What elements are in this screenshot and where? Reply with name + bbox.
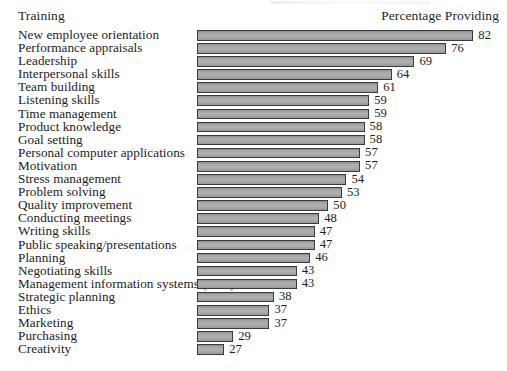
category-label: Public speaking/presentations	[18, 238, 177, 251]
bar	[197, 56, 414, 67]
bar-value-label: 43	[302, 277, 315, 291]
bar-track: 47	[197, 226, 375, 237]
bar	[197, 30, 473, 41]
bar-value-label: 57	[365, 159, 378, 173]
bar-value-label: 53	[347, 186, 360, 200]
bar	[197, 279, 297, 290]
chart-header: Training Percentage Providing	[0, 8, 507, 28]
bar	[197, 266, 297, 277]
bar-track: 58	[197, 122, 425, 133]
chart-plot-area: New employee orientation82Performance ap…	[0, 29, 507, 369]
bar-track: 29	[197, 331, 293, 342]
bar	[197, 344, 224, 355]
chart-row: Creativity27	[0, 343, 507, 356]
bar	[197, 292, 274, 303]
bar-track: 59	[197, 95, 429, 106]
bar	[197, 135, 365, 146]
category-label: Goal setting	[18, 133, 83, 146]
bar-track: 47	[197, 240, 375, 251]
bar-track: 37	[197, 318, 329, 329]
bar	[197, 200, 328, 211]
bar	[197, 148, 360, 159]
bar	[197, 187, 342, 198]
column-header-training: Training	[18, 8, 65, 24]
bar-value-label: 37	[274, 303, 287, 317]
bar	[197, 305, 269, 316]
category-label: Listening skills	[18, 93, 100, 106]
chart-row: Strategic planning38	[0, 291, 507, 304]
bar	[197, 318, 269, 329]
bar	[197, 122, 365, 133]
bar	[197, 161, 360, 172]
category-label: Product knowledge	[18, 120, 121, 133]
chart-row: Public speaking/presentations47	[0, 239, 507, 252]
bar-track: 57	[197, 161, 420, 172]
bar-value-label: 54	[351, 173, 364, 187]
bar-track: 43	[197, 279, 357, 290]
bar-track: 53	[197, 187, 402, 198]
bar-value-label: 46	[315, 251, 328, 265]
bar-value-label: 82	[478, 29, 491, 43]
bar-track: 38	[197, 292, 334, 303]
bar-track: 57	[197, 148, 420, 159]
category-label: Writing skills	[18, 224, 90, 237]
bar-track: 64	[197, 69, 452, 80]
category-label: Creativity	[18, 342, 71, 355]
bar	[197, 109, 369, 120]
bar	[197, 253, 310, 264]
column-header-percentage-providing: Percentage Providing	[381, 8, 499, 24]
bar	[197, 213, 319, 224]
bar-track: 61	[197, 82, 438, 93]
category-label: Planning	[18, 251, 65, 264]
bar-track: 37	[197, 305, 329, 316]
bar	[197, 95, 369, 106]
bar	[197, 82, 378, 93]
bar	[197, 240, 315, 251]
bar-track: 48	[197, 213, 379, 224]
bar-value-label: 64	[397, 68, 410, 82]
bar-value-label: 27	[229, 343, 242, 357]
bar-track: 43	[197, 266, 357, 277]
bar	[197, 69, 392, 80]
bar-track: 69	[197, 56, 474, 67]
bar-track: 76	[197, 43, 506, 54]
bar-chart: Training Percentage Providing New employ…	[0, 0, 507, 371]
chart-row: Ethics37	[0, 304, 507, 317]
bar	[197, 174, 346, 185]
category-label: Negotiating skills	[18, 264, 112, 277]
bar-track: 54	[197, 174, 406, 185]
category-label: Time management	[18, 107, 117, 120]
bar-track: 27	[197, 344, 284, 355]
chart-row: Purchasing29	[0, 330, 507, 343]
scan-artifact	[270, 1, 430, 4]
bar	[197, 43, 446, 54]
bar-value-label: 76	[451, 42, 464, 56]
bar-track: 59	[197, 109, 429, 120]
bar	[197, 331, 233, 342]
bar-value-label: 37	[274, 317, 287, 331]
bar	[197, 226, 315, 237]
bar-track: 58	[197, 135, 425, 146]
bar-track: 46	[197, 253, 370, 264]
bar-track: 50	[197, 200, 388, 211]
bar-value-label: 69	[419, 55, 432, 69]
bar-track: 82	[197, 30, 507, 41]
